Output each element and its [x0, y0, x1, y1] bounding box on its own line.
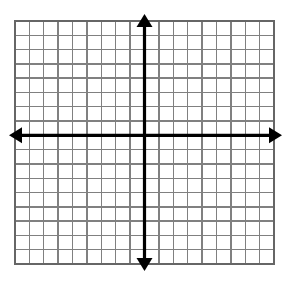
coordinate-grid-figure [0, 0, 291, 284]
grid-svg [0, 0, 291, 284]
